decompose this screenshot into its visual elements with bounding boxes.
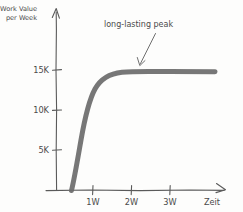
y-tick-15k (53, 70, 62, 71)
data-curve-work-value (72, 71, 216, 190)
x-tick-label-3w: 3W (163, 197, 176, 207)
x-axis-arrowhead (216, 184, 226, 193)
y-axis-title-line1: Work Value (0, 5, 37, 13)
y-axis-title-line2: per Week (6, 14, 37, 22)
annotation-arrow-line (141, 34, 156, 64)
x-tick-label-2w: 2W (125, 197, 138, 207)
y-axis-line (56, 12, 57, 190)
x-tick-label-1w: 1W (86, 197, 99, 207)
annotation-long-lasting-peak: long-lasting peak (104, 20, 173, 29)
y-tick-label-15k: 15K (33, 65, 49, 75)
chart-container: Work Value per Week 15K 10K 5K 1W 2W 3W … (0, 0, 243, 212)
y-tick-5k (53, 150, 62, 151)
x-axis-title: Zeit (204, 197, 221, 207)
y-tick-label-10k: 10K (33, 105, 49, 115)
work-value-chart: Work Value per Week 15K 10K 5K 1W 2W 3W … (0, 0, 243, 212)
y-tick-label-5k: 5K (38, 145, 49, 155)
